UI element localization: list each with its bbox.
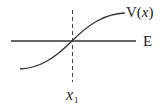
energy-label: E: [143, 34, 152, 49]
potential-energy-diagram: V(x) E x1: [0, 0, 165, 112]
turning-point-subscript: 1: [74, 95, 79, 105]
turning-point-variable: x: [66, 86, 73, 103]
potential-label-variable: x: [142, 4, 149, 20]
potential-label-prefix: V(: [126, 4, 142, 20]
potential-label: V(x): [126, 5, 154, 20]
potential-label-suffix: ): [149, 4, 154, 20]
turning-point-label: x1: [66, 87, 79, 105]
